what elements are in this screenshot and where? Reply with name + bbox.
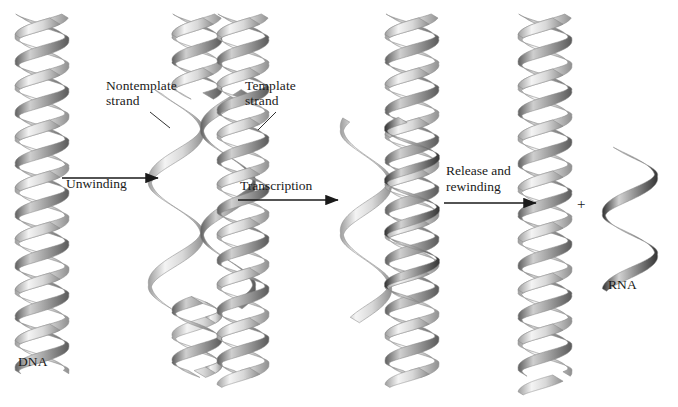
label-leader-line <box>150 112 170 128</box>
rna-label: RNA <box>608 277 637 292</box>
arrow-label-transcription: Transcription <box>240 178 312 194</box>
transcription-diagram: DNA RNA Nontemplate strand Template stra… <box>0 0 678 407</box>
plus-sign: + <box>577 196 585 213</box>
arrow-label-release-rewinding: Release and rewinding <box>446 163 511 194</box>
nontemplate-strand-label: Nontemplate strand <box>106 78 177 108</box>
template-strand-label: Template strand <box>245 78 296 108</box>
dna-label: DNA <box>18 354 48 369</box>
label-leader-line <box>258 112 276 130</box>
arrow-label-unwinding: Unwinding <box>66 176 127 192</box>
